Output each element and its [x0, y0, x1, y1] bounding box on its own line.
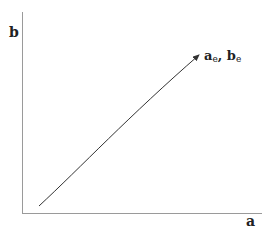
diagram-canvas: b a ae, be	[0, 0, 279, 234]
trajectory-curve	[39, 55, 199, 206]
x-axis-label: a	[246, 213, 255, 229]
y-axis-label: b	[9, 24, 19, 40]
endpoint-b: b	[227, 48, 236, 63]
endpoint-separator: ,	[218, 48, 227, 63]
endpoint-label: ae, be	[204, 48, 241, 64]
endpoint-b-sub: e	[236, 54, 241, 64]
